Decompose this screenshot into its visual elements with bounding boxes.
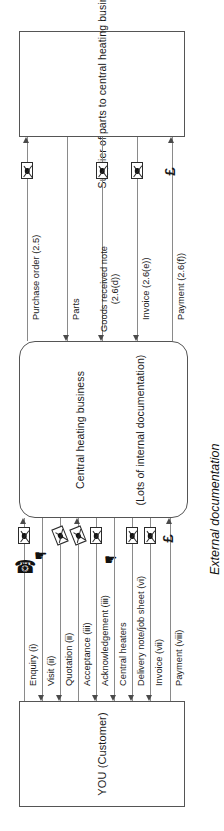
flow-arrow-purchase-order	[23, 137, 29, 143]
flow-line-acceptance	[78, 518, 79, 701]
flow-label-quotation: Quotation (ii)	[64, 633, 75, 686]
flow-arrow-enquiry	[20, 518, 26, 524]
flow-line-acknowledgement	[96, 518, 97, 701]
envelope-icon	[131, 162, 143, 179]
business-box-label: Central heating business	[74, 371, 86, 489]
flow-label-payment-supplier: Payment (2.6(f))	[176, 253, 187, 320]
business-box-sublabel: (Lots of internal documentation)	[134, 354, 146, 505]
flow-arrow-payment-customer	[166, 518, 172, 524]
flow-line-parts	[67, 137, 68, 341]
envelope-icon	[96, 162, 108, 179]
flow-label-central-heaters: Central heaters	[118, 622, 129, 686]
envelope-open-icon	[69, 525, 86, 545]
customer-box: YOU (Customer)	[19, 701, 185, 807]
flow-arrow-payment-supplier	[168, 137, 174, 143]
flow-label-purchase-order: Purchase order (2.5)	[31, 235, 42, 320]
envelope-icon	[144, 527, 156, 544]
supplier-box: Supplier of parts to central heating bus…	[19, 31, 185, 137]
envelope-open-icon	[51, 525, 68, 545]
flow-label-invoice-customer: Invoice (vii)	[154, 639, 165, 686]
flow-label-goods-received-note: Goods received note (2.6(d))	[99, 246, 120, 332]
central-heating-business-box: Central heating business (Lots of intern…	[19, 341, 188, 518]
flow-arrow-acceptance	[74, 518, 80, 524]
diagram-canvas: Supplier of parts to central heating bus…	[0, 0, 224, 831]
flow-label-acknowledgement: Acknowledgement (iii)	[100, 595, 111, 686]
flow-line-visit	[42, 518, 43, 701]
flow-label-payment-customer: Payment (viii)	[174, 630, 185, 686]
person-icon: ☛	[104, 552, 117, 567]
flow-label-enquiry: Enquiry (i)	[28, 644, 39, 686]
flow-line-invoice-customer	[150, 518, 151, 701]
flow-line-enquiry	[24, 518, 25, 701]
flow-line-payment-customer	[170, 518, 171, 701]
flow-label-parts: Parts	[71, 298, 82, 320]
flow-line-delivery-note	[132, 518, 133, 701]
flow-line-quotation	[60, 518, 61, 701]
diagram-caption: External documentation	[208, 444, 222, 575]
flow-label-acceptance: Acceptance (iii)	[82, 622, 93, 686]
envelope-icon	[126, 527, 138, 544]
pound-icon: £	[159, 534, 176, 542]
envelope-icon	[21, 162, 33, 179]
person-icon: ☛	[34, 548, 47, 563]
flow-label-invoice-supplier: Invoice (2.6(e))	[141, 257, 152, 320]
flow-label-delivery-note: Delivery note/job sheet (vi)	[136, 576, 147, 686]
pound-icon: £	[161, 167, 178, 175]
envelope-icon	[18, 527, 30, 544]
flow-label-visit: Visit (ii)	[46, 656, 57, 686]
customer-box-label: YOU (Customer)	[96, 712, 109, 795]
envelope-icon	[90, 527, 102, 544]
flow-line-central-heaters	[114, 518, 115, 701]
